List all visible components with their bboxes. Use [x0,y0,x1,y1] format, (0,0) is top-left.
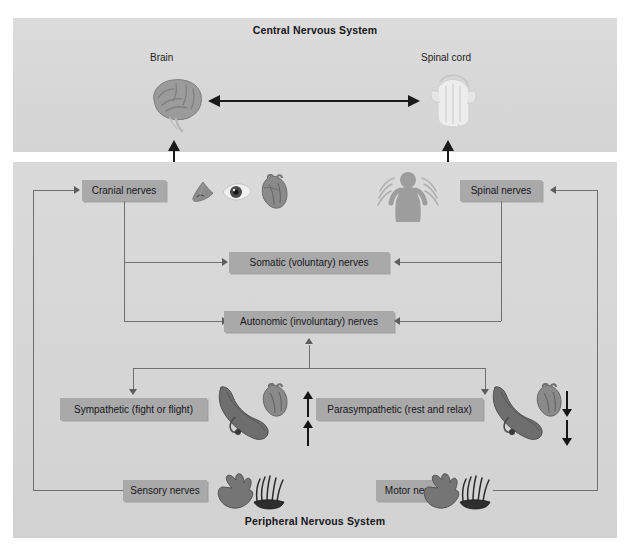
somatic-right-arrowhead [394,258,400,266]
parasympathetic-decrease-arrow-1 [560,391,574,417]
brain-label: Brain [150,52,173,63]
eye-icon [222,183,252,201]
autonomic-branch-bar [133,368,485,369]
central-nervous-system-panel [13,18,617,152]
branch-left-line [133,368,134,390]
peripheral-nervous-system-panel [13,162,617,538]
cranial-down-line [124,201,125,321]
sympathetic-increase-arrow-2 [301,420,315,446]
pns-title: Peripheral Nervous System [0,515,630,527]
brain-spinalcord-bidirectional-arrow [208,95,420,107]
spinal-to-autonomic-line [400,321,501,322]
box-spinal-nerves-label: Spinal nerves [471,185,532,196]
autonomic-up-arrowhead [305,338,313,344]
left-to-cranial-line [33,190,75,191]
parasympathetic-down-arrowhead [481,389,489,395]
right-to-spinal-line [556,190,598,191]
right-vertical-line [597,190,598,491]
sensory-to-left-line [33,490,123,491]
autonomic-stem-line [309,345,310,368]
autonomic-right-arrowhead [394,317,400,325]
box-sympathetic[interactable]: Sympathetic (fight or flight) [60,398,207,420]
box-somatic-nerves[interactable]: Somatic (voluntary) nerves [229,252,389,273]
brain-icon [146,74,208,132]
box-sensory-nerves[interactable]: Sensory nerves [123,480,207,501]
box-autonomic-nerves-label: Autonomic (involuntary) nerves [240,316,378,327]
spinal-to-somatic-line [400,262,501,263]
cns-title: Central Nervous System [0,24,630,36]
box-autonomic-nerves[interactable]: Autonomic (involuntary) nerves [224,311,394,332]
spinal-cord-icon [424,72,482,134]
cranial-to-autonomic-line [124,321,224,322]
box-parasympathetic-label: Parasympathetic (rest and relax) [327,404,472,415]
lung-heart-icon-sympathetic [215,383,293,445]
hand-hair-icon-sensory [215,471,287,513]
branch-right-line [485,368,486,390]
box-sympathetic-label: Sympathetic (fight or flight) [74,404,193,415]
box-spinal-nerves[interactable]: Spinal nerves [460,180,542,201]
motor-to-right-line [493,490,597,491]
heart-icon [258,174,290,210]
spinal-down-line [501,201,502,321]
sympathetic-increase-arrow-1 [301,391,315,417]
hand-hair-icon-motor [421,471,493,513]
spinal-inbound-arrowhead [550,186,556,194]
box-sensory-nerves-label: Sensory nerves [130,485,199,496]
torso-nerves-icon [376,168,440,224]
nose-icon [190,180,216,204]
parasympathetic-decrease-arrow-2 [560,420,574,446]
somatic-left-arrowhead [222,258,228,266]
lung-heart-icon-parasympathetic [489,383,567,445]
left-vertical-line [33,190,34,491]
box-somatic-nerves-label: Somatic (voluntary) nerves [250,257,369,268]
box-cranial-nerves-label: Cranial nerves [92,185,156,196]
cranial-inbound-arrowhead [74,186,80,194]
sympathetic-down-arrowhead [129,389,137,395]
box-parasympathetic[interactable]: Parasympathetic (rest and relax) [316,398,483,420]
box-cranial-nerves[interactable]: Cranial nerves [82,180,166,201]
cranial-to-somatic-line [124,262,224,263]
nervous-system-diagram: Central Nervous System Brain Spinal cord [0,0,630,554]
spinal-cord-label: Spinal cord [421,52,471,63]
